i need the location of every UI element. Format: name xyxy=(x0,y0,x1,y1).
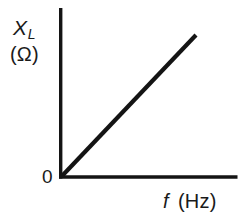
y-axis-symbol-base: X xyxy=(13,16,27,39)
data-series-line xyxy=(62,35,197,177)
y-axis-symbol-subscript: L xyxy=(28,26,36,42)
chart-plot-area xyxy=(0,0,241,220)
x-axis-symbol-label: f xyxy=(163,191,169,211)
inductive-reactance-chart: XL (Ω) 0 f (Hz) xyxy=(0,0,241,220)
y-axis-symbol-label: XL xyxy=(13,17,36,41)
origin-label: 0 xyxy=(42,167,53,186)
y-axis-unit-label: (Ω) xyxy=(10,44,39,64)
x-axis-unit-label: (Hz) xyxy=(178,191,217,211)
